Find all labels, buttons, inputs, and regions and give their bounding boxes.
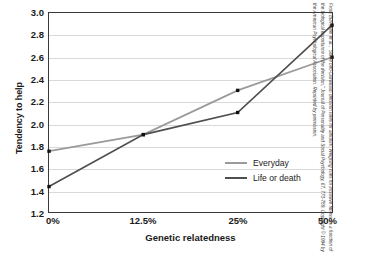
data-point-marker bbox=[236, 111, 239, 114]
data-point-marker bbox=[47, 150, 50, 153]
y-axis-tick-labels: 3.02.82.62.42.22.01.81.61.41.2 bbox=[18, 0, 44, 258]
y-axis-tick-label: 3.0 bbox=[18, 7, 44, 18]
x-axis-tick-label: 25% bbox=[228, 215, 247, 226]
y-axis-tick-label: 2.2 bbox=[18, 96, 44, 107]
y-axis-tick-label: 1.6 bbox=[18, 163, 44, 174]
legend-swatch-icon bbox=[225, 162, 247, 164]
figure: Tendency to help 3.02.82.62.42.22.01.81.… bbox=[0, 0, 389, 258]
legend-label: Everyday bbox=[253, 158, 289, 168]
y-axis-tick-label: 1.2 bbox=[18, 208, 44, 219]
y-axis-tick-label: 1.4 bbox=[18, 185, 44, 196]
data-point-marker bbox=[142, 133, 145, 136]
y-axis-tick-label: 2.4 bbox=[18, 74, 44, 85]
y-axis-tick-label: 2.6 bbox=[18, 51, 44, 62]
legend-swatch-icon bbox=[225, 177, 247, 179]
source-credit: From Burnstein et al., “Some neo-Darwini… bbox=[285, 0, 337, 258]
x-axis-tick-label: 12.5% bbox=[130, 215, 157, 226]
data-point-marker bbox=[236, 89, 239, 92]
y-axis-tick-label: 1.8 bbox=[18, 141, 44, 152]
y-axis-tick-label: 2.8 bbox=[18, 29, 44, 40]
y-axis-tick-label: 2.0 bbox=[18, 118, 44, 129]
x-axis-tick-label: 0% bbox=[46, 215, 60, 226]
data-point-marker bbox=[47, 185, 50, 188]
